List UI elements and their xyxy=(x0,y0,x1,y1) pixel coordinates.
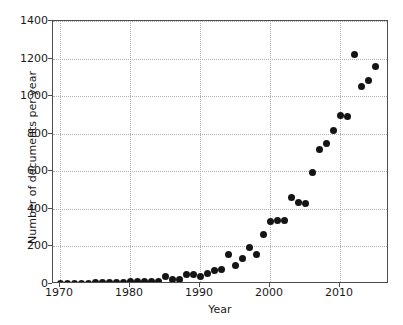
scatter-point xyxy=(309,169,316,176)
y-tick-label: 600 xyxy=(0,165,48,176)
scatter-point xyxy=(197,273,204,280)
scatter-point xyxy=(323,140,330,147)
scatter-point xyxy=(372,63,379,70)
scatter-point xyxy=(134,278,141,283)
scatter-point xyxy=(295,199,302,206)
scatter-point xyxy=(358,83,365,90)
scatter-point xyxy=(120,279,127,283)
gridline-horizontal xyxy=(53,134,387,135)
scatter-point xyxy=(267,218,274,225)
x-tick-label: 2000 xyxy=(239,287,299,298)
scatter-point xyxy=(239,255,246,262)
scatter-point xyxy=(232,262,239,269)
y-tick-label: 1000 xyxy=(0,90,48,101)
y-tick-label: 200 xyxy=(0,240,48,251)
scatter-point xyxy=(127,278,134,283)
y-tick-label: 1200 xyxy=(0,52,48,63)
x-tick-label: 1980 xyxy=(99,287,159,298)
scatter-point xyxy=(274,217,281,224)
gridline-vertical xyxy=(200,21,201,282)
y-tick-label: 1400 xyxy=(0,15,48,26)
y-tick-mark xyxy=(48,283,52,284)
gridline-horizontal xyxy=(53,209,387,210)
scatter-point xyxy=(141,278,148,283)
gridline-vertical xyxy=(270,21,271,282)
y-axis-title: Number of documents per year xyxy=(26,53,39,263)
scatter-point xyxy=(113,279,120,283)
scatter-point xyxy=(162,273,169,280)
scatter-point xyxy=(211,267,218,274)
scatter-point xyxy=(337,112,344,119)
scatter-point xyxy=(71,280,78,283)
gridline-horizontal xyxy=(53,246,387,247)
x-tick-mark xyxy=(129,283,130,287)
x-tick-mark xyxy=(199,283,200,287)
scatter-point xyxy=(64,280,71,283)
y-tick-label: 800 xyxy=(0,127,48,138)
scatter-point xyxy=(281,217,288,224)
y-tick-label: 400 xyxy=(0,202,48,213)
scatter-point xyxy=(190,271,197,278)
scatter-point xyxy=(246,244,253,251)
gridline-vertical xyxy=(60,21,61,282)
scatter-point xyxy=(155,278,162,283)
scatter-point xyxy=(99,279,106,283)
gridline-horizontal xyxy=(53,96,387,97)
scatter-point xyxy=(330,127,337,134)
x-tick-label: 1990 xyxy=(169,287,229,298)
scatter-point xyxy=(316,146,323,153)
scatter-point xyxy=(169,276,176,283)
scatter-point xyxy=(253,251,260,258)
scatter-point xyxy=(148,278,155,283)
x-axis-title: Year xyxy=(52,303,388,316)
scatter-point xyxy=(78,280,85,283)
gridline-vertical xyxy=(340,21,341,282)
scatter-point xyxy=(260,231,267,238)
scatter-point xyxy=(225,251,232,258)
gridline-horizontal xyxy=(53,171,387,172)
scatter-point xyxy=(92,279,99,283)
scatter-point xyxy=(218,266,225,273)
scatter-point xyxy=(344,113,351,120)
scatter-point xyxy=(57,280,64,283)
scatter-point xyxy=(302,200,309,207)
x-tick-label: 1970 xyxy=(29,287,89,298)
scatter-point xyxy=(85,280,92,283)
gridline-horizontal xyxy=(53,59,387,60)
chart-figure: 0200400600800100012001400 19701980199020… xyxy=(0,0,403,325)
x-tick-mark xyxy=(269,283,270,287)
scatter-point xyxy=(106,279,113,283)
x-tick-mark xyxy=(339,283,340,287)
scatter-point xyxy=(176,276,183,283)
gridline-vertical xyxy=(130,21,131,282)
scatter-point xyxy=(204,270,211,277)
x-tick-label: 2010 xyxy=(309,287,369,298)
scatter-point xyxy=(183,271,190,278)
scatter-point xyxy=(365,77,372,84)
scatter-point xyxy=(351,51,358,58)
gridline-horizontal xyxy=(53,21,387,22)
x-tick-mark xyxy=(59,283,60,287)
scatter-point xyxy=(288,194,295,201)
plot-area xyxy=(52,20,388,283)
